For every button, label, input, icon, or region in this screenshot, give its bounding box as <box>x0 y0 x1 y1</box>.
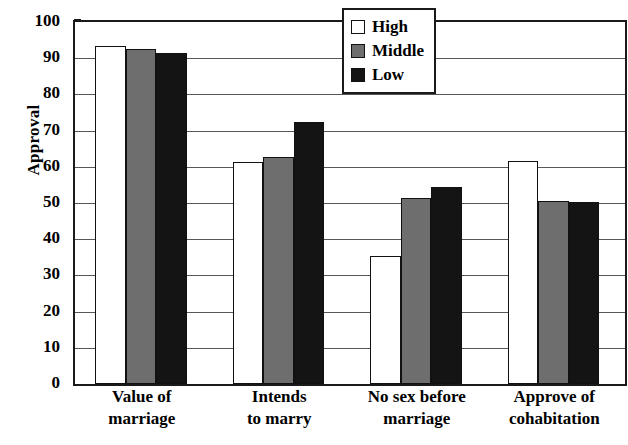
legend-swatch-middle <box>351 44 365 58</box>
category-label-line: Intends <box>211 386 349 408</box>
legend-label-high: High <box>372 17 408 37</box>
bar <box>126 49 157 384</box>
bar <box>294 122 325 384</box>
y-tick-label: 90 <box>8 48 60 65</box>
category-label: Intendsto marry <box>211 386 349 431</box>
legend-label-low: Low <box>372 65 404 85</box>
legend-item-high: High <box>351 15 424 39</box>
y-tick-label: 70 <box>8 120 60 137</box>
legend-item-middle: Middle <box>351 39 424 63</box>
category-label: No sex beforemarriage <box>348 386 486 431</box>
legend-label-middle: Middle <box>372 41 424 61</box>
category-label-line: cohabitation <box>486 408 624 430</box>
bar <box>538 201 569 384</box>
x-axis-category-labels: Value ofmarriageIntendsto marryNo sex be… <box>73 386 623 442</box>
bar <box>95 46 126 384</box>
y-tick-label: 50 <box>8 193 60 210</box>
legend-item-low: Low <box>351 63 424 87</box>
chart-legend: High Middle Low <box>342 8 436 94</box>
category-label-line: marriage <box>348 408 486 430</box>
bar <box>233 162 264 384</box>
category-label-line: Approve of <box>486 386 624 408</box>
legend-swatch-low <box>351 68 365 82</box>
category-label: Value ofmarriage <box>73 386 211 431</box>
bar <box>431 187 462 384</box>
y-tick-label: 80 <box>8 84 60 101</box>
y-tick-label: 30 <box>8 265 60 282</box>
category-label: Approve ofcohabitation <box>486 386 624 431</box>
y-tick-label: 40 <box>8 229 60 246</box>
category-label-line: to marry <box>211 408 349 430</box>
y-tick-label: 0 <box>8 374 60 391</box>
category-label-line: Value of <box>73 386 211 408</box>
category-label-line: marriage <box>73 408 211 430</box>
y-axis-tick-labels: 0102030405060708090100 <box>8 20 60 382</box>
bar <box>263 157 294 384</box>
bar <box>401 198 432 384</box>
y-tick-label: 100 <box>8 12 60 29</box>
bar <box>156 53 187 384</box>
bar <box>569 202 600 384</box>
legend-swatch-high <box>351 20 365 34</box>
category-label-line: No sex before <box>348 386 486 408</box>
y-tick-label: 10 <box>8 337 60 354</box>
bar-chart: Approval 0102030405060708090100 High Mid… <box>0 0 628 445</box>
bar <box>370 256 401 384</box>
bar <box>508 161 539 384</box>
y-tick-label: 20 <box>8 301 60 318</box>
y-tick-label: 60 <box>8 156 60 173</box>
